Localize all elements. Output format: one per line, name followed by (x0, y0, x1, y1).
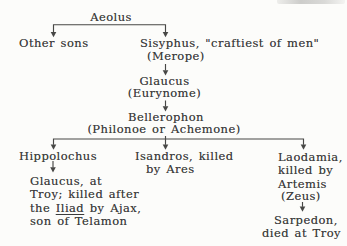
node-sarpedon-line2: died at Troy (262, 227, 341, 240)
node-isandros-line2: by Ares (146, 163, 195, 176)
node-sisyphus: Sisyphus, "craftiest of men" (140, 37, 319, 50)
node-laodamia-line4: (Zeus) (281, 190, 321, 203)
node-glaucus-younger-line3: the Iliad by Ajax, (30, 202, 141, 215)
node-glaucus-younger-line1: Glaucus, at (30, 175, 102, 188)
line3-iliad: Iliad (56, 201, 84, 215)
node-glaucus-younger-line2: Troy; killed after (30, 188, 139, 201)
arrowhead (301, 145, 307, 150)
genealogy-diagram: Aeolus Other sons Sisyphus, "craftiest o… (0, 0, 347, 246)
node-sisyphus-consort: (Merope) (147, 50, 205, 63)
node-isandros-line1: Isandros, killed (135, 150, 234, 163)
arrowhead (50, 167, 56, 172)
node-glaucus-elder-consort: (Eurynome) (128, 87, 201, 100)
branch-bellerophon (51, 136, 307, 150)
line3-post: by Ajax, (84, 201, 141, 215)
node-glaucus-younger-line4: son of Telamon (30, 215, 127, 228)
node-laodamia-line2: killed by (278, 164, 333, 177)
line3-pre: the (30, 201, 56, 215)
node-bellerophon-consort: (Philonoe or Achemone) (87, 123, 240, 136)
node-aeolus: Aeolus (90, 11, 132, 24)
arrow-laodamia-sarpedon (300, 202, 306, 212)
node-hippolochus: Hippolochus (19, 150, 97, 163)
node-other-sons: Other sons (19, 37, 89, 50)
node-laodamia-line1: Laodamia, (278, 151, 343, 164)
arrowhead (300, 207, 306, 212)
node-sarpedon-line1: Sarpedon, (274, 214, 338, 227)
